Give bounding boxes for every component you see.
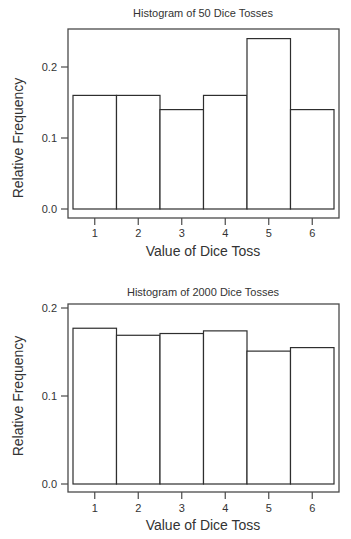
- histogram-50: Histogram of 50 Dice Tosses0.00.10.21234…: [10, 7, 339, 259]
- histogram-bar: [291, 348, 335, 484]
- y-tick-label: 0.2: [42, 61, 57, 73]
- x-axis-label: Value of Dice Toss: [146, 517, 261, 533]
- x-tick-label: 3: [179, 502, 185, 514]
- x-tick-label: 6: [309, 502, 315, 514]
- y-tick-label: 0.1: [42, 390, 57, 402]
- histogram-bar: [204, 95, 248, 209]
- x-tick-label: 3: [179, 227, 185, 239]
- x-tick-label: 2: [135, 502, 141, 514]
- histogram-bar: [291, 110, 335, 209]
- histogram-bar: [73, 95, 117, 209]
- y-tick-label: 0.2: [42, 302, 57, 314]
- y-axis-label: Relative Frequency: [10, 336, 26, 457]
- histogram-bar: [247, 351, 291, 484]
- x-tick-label: 1: [92, 502, 98, 514]
- y-tick-label: 0.1: [42, 132, 57, 144]
- x-tick-label: 5: [266, 502, 272, 514]
- y-axis-label: Relative Frequency: [10, 78, 26, 199]
- histogram-bar: [73, 328, 117, 484]
- histogram-bar: [204, 331, 248, 484]
- histogram-bar: [117, 335, 161, 484]
- x-tick-label: 2: [135, 227, 141, 239]
- histogram-figure: Histogram of 50 Dice Tosses0.00.10.21234…: [0, 0, 351, 539]
- histogram-bar: [160, 334, 204, 484]
- histogram-bar: [160, 110, 204, 209]
- x-tick-label: 1: [92, 227, 98, 239]
- chart-title: Histogram of 50 Dice Tosses: [133, 7, 273, 19]
- x-tick-label: 4: [222, 227, 228, 239]
- histogram-bar: [117, 95, 161, 209]
- x-tick-label: 6: [309, 227, 315, 239]
- x-tick-label: 5: [266, 227, 272, 239]
- y-tick-label: 0.0: [42, 478, 57, 490]
- x-tick-label: 4: [222, 502, 228, 514]
- histogram-2000: Histogram of 2000 Dice Tosses0.00.10.212…: [10, 286, 339, 533]
- x-axis-label: Value of Dice Toss: [146, 243, 261, 259]
- chart-title: Histogram of 2000 Dice Tosses: [127, 286, 280, 298]
- histogram-bar: [247, 39, 291, 209]
- y-tick-label: 0.0: [42, 203, 57, 215]
